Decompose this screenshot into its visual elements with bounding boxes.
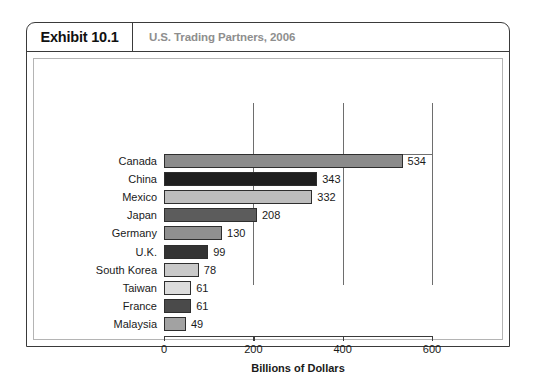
bar: [164, 281, 191, 295]
bar-value-label: 332: [312, 191, 335, 203]
exhibit-number: Exhibit 10.1: [40, 29, 118, 45]
category-label-china: China: [128, 173, 157, 185]
bar-row: China343: [164, 172, 432, 186]
category-label-taiwan: Taiwan: [123, 282, 157, 294]
exhibit-frame: Exhibit 10.1 U.S. Trading Partners, 2006…: [26, 22, 510, 347]
category-label-canada: Canada: [118, 155, 157, 167]
exhibit-title-cell: U.S. Trading Partners, 2006: [133, 23, 509, 51]
bar-row: South Korea78: [164, 263, 432, 277]
exhibit-header: Exhibit 10.1 U.S. Trading Partners, 2006: [27, 23, 509, 52]
tick-mark-200: [253, 336, 254, 341]
bar-row: U.K.99: [164, 245, 432, 259]
category-label-germany: Germany: [112, 227, 157, 239]
category-label-u-k: U.K.: [136, 246, 157, 258]
bar: [164, 245, 208, 259]
x-axis-title: Billions of Dollars: [164, 362, 432, 374]
bar-row: France61: [164, 299, 432, 313]
bar-row: Canada534: [164, 154, 432, 168]
category-label-south-korea: South Korea: [96, 264, 157, 276]
bar: [164, 190, 312, 204]
bar-value-label: 78: [199, 264, 216, 276]
bar: [164, 263, 199, 277]
bar: [164, 208, 257, 222]
bar-chart: Canada534China343Mexico332Japan208German…: [164, 103, 432, 285]
bar-value-label: 343: [317, 173, 340, 185]
bar-value-label: 208: [257, 209, 280, 221]
chart-body: Canada534China343Mexico332Japan208German…: [27, 52, 509, 346]
tick-label-600: 600: [423, 343, 441, 355]
bar: [164, 317, 186, 331]
bar: [164, 154, 403, 168]
bar: [164, 172, 317, 186]
category-label-mexico: Mexico: [122, 191, 157, 203]
x-axis-line: [164, 336, 433, 337]
bar-row: Mexico332: [164, 190, 432, 204]
bar-row: Malaysia49: [164, 317, 432, 331]
category-label-japan: Japan: [127, 209, 157, 221]
bar: [164, 226, 222, 240]
bar-value-label: 130: [222, 227, 245, 239]
bar-value-label: 61: [191, 300, 208, 312]
tick-mark-400: [343, 336, 344, 341]
bar-value-label: 99: [208, 246, 225, 258]
tick-mark-0: [164, 336, 165, 341]
tick-label-400: 400: [333, 343, 351, 355]
gridline-600: [432, 103, 433, 285]
bar-row: Japan208: [164, 208, 432, 222]
bar-row: Germany130: [164, 226, 432, 240]
tick-label-200: 200: [244, 343, 262, 355]
category-label-malaysia: Malaysia: [114, 318, 157, 330]
bar-value-label: 49: [186, 318, 203, 330]
exhibit-number-cell: Exhibit 10.1: [27, 23, 133, 51]
tick-label-0: 0: [161, 343, 167, 355]
exhibit-title: U.S. Trading Partners, 2006: [149, 31, 295, 43]
category-label-france: France: [123, 300, 157, 312]
bar-value-label: 61: [191, 282, 208, 294]
bar-value-label: 534: [403, 155, 426, 167]
bar-row: Taiwan61: [164, 281, 432, 295]
tick-mark-600: [432, 336, 433, 341]
bar: [164, 299, 191, 313]
